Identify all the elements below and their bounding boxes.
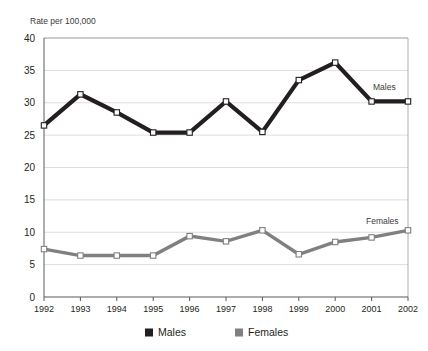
legend-label-females: Females <box>248 326 288 338</box>
x-axis-tick-label: 1992 <box>34 304 54 314</box>
data-point-marker <box>187 130 192 135</box>
x-axis-tick-label: 1995 <box>143 304 163 314</box>
data-point-marker <box>78 92 83 97</box>
data-point-marker <box>78 253 83 258</box>
y-axis-tick-label: 20 <box>24 162 36 173</box>
x-axis-tick-label: 2001 <box>362 304 382 314</box>
x-axis-tick-label: 1993 <box>70 304 90 314</box>
y-axis-tick-label: 15 <box>24 194 36 205</box>
data-point-marker <box>41 123 46 128</box>
chart-container: 0510152025303540199219931994199519961997… <box>0 0 428 351</box>
legend-swatch <box>235 329 243 337</box>
x-axis-tick-label: 1994 <box>107 304 127 314</box>
y-axis-tick-label: 35 <box>24 65 36 76</box>
y-axis-tick-label: 30 <box>24 97 36 108</box>
x-axis-tick-label: 1998 <box>252 304 272 314</box>
data-point-marker <box>296 77 301 82</box>
data-point-marker <box>369 99 374 104</box>
x-axis-tick-label: 1999 <box>289 304 309 314</box>
data-point-marker <box>260 228 265 233</box>
series-inline-label-females: Females <box>366 216 399 226</box>
y-axis-tick-label: 0 <box>29 292 35 303</box>
data-point-marker <box>41 246 46 251</box>
data-point-marker <box>223 239 228 244</box>
x-axis-tick-label: 2000 <box>325 304 345 314</box>
y-axis-tick-label: 10 <box>24 227 36 238</box>
data-point-marker <box>333 239 338 244</box>
data-point-marker <box>405 228 410 233</box>
x-axis-tick-label: 2002 <box>398 304 418 314</box>
series-line-males <box>44 63 408 133</box>
data-point-marker <box>405 99 410 104</box>
data-point-marker <box>369 235 374 240</box>
x-axis-tick-label: 1997 <box>216 304 236 314</box>
legend-swatch <box>145 329 153 337</box>
line-chart: 0510152025303540199219931994199519961997… <box>0 0 428 351</box>
x-axis-tick-label: 1996 <box>180 304 200 314</box>
data-point-marker <box>223 99 228 104</box>
data-point-marker <box>296 252 301 257</box>
data-point-marker <box>151 253 156 258</box>
data-point-marker <box>187 233 192 238</box>
y-axis-tick-label: 5 <box>29 259 35 270</box>
y-axis-tick-label: 25 <box>24 130 36 141</box>
series-inline-label-males: Males <box>373 82 396 92</box>
data-point-marker <box>114 110 119 115</box>
data-point-marker <box>151 130 156 135</box>
data-point-marker <box>114 253 119 258</box>
data-point-marker <box>333 60 338 65</box>
y-axis-title: Rate per 100,000 <box>30 16 96 26</box>
y-axis-tick-label: 40 <box>24 33 36 44</box>
legend-label-males: Males <box>158 326 186 338</box>
data-point-marker <box>260 129 265 134</box>
